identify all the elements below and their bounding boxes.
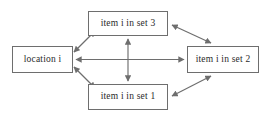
edge-set3-set2 bbox=[172, 25, 211, 43]
node-item-in-set-2-label: item i in set 2 bbox=[196, 55, 251, 65]
node-location-i-label: location i bbox=[24, 55, 62, 65]
node-item-in-set-1: item i in set 1 bbox=[88, 84, 168, 110]
edge-set1-set2 bbox=[172, 76, 211, 96]
node-item-in-set-3: item i in set 3 bbox=[88, 11, 168, 36]
diagram-canvas: location i item i in set 3 item i in set… bbox=[0, 0, 267, 117]
node-item-in-set-2: item i in set 2 bbox=[187, 46, 259, 73]
node-location-i: location i bbox=[12, 46, 73, 73]
node-item-in-set-1-label: item i in set 1 bbox=[101, 92, 156, 102]
node-item-in-set-3-label: item i in set 3 bbox=[101, 19, 156, 29]
